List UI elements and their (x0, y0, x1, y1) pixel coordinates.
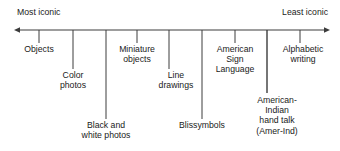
axis-endpoint-most-iconic: Most iconic (17, 7, 60, 17)
item-label-miniature-objects: Miniature objects (119, 44, 155, 64)
item-label-alphabetic-writing: Alphabetic writing (283, 44, 324, 64)
item-label-blissymbols: Blissymbols (179, 120, 225, 130)
item-label-black-and-white-photos: Black and white photos (82, 120, 131, 140)
axis-endpoint-least-iconic: Least iconic (282, 7, 328, 17)
iconicity-continuum-diagram: Most iconic Least iconic Objects Color p… (0, 0, 340, 151)
item-label-color-photos: Color photos (60, 70, 86, 90)
item-label-american-sign-language: American Sign Language (216, 44, 255, 75)
item-label-american-indian-hand-talk: American-Indian hand talk (Amer-Ind) (246, 95, 309, 136)
item-label-line-drawings: Line drawings (159, 70, 194, 90)
item-label-objects: Objects (24, 44, 53, 54)
